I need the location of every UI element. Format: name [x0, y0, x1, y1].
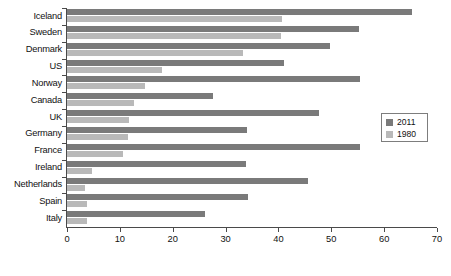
x-axis-tick	[67, 228, 68, 232]
bar-denmark-2011	[67, 43, 330, 49]
bar-group	[67, 75, 437, 92]
x-axis-tick-label: 10	[105, 234, 135, 245]
y-axis-tick	[62, 59, 66, 60]
y-axis-tick	[62, 75, 66, 76]
bar-denmark-1980	[67, 50, 243, 56]
y-axis-label-us: US	[0, 61, 62, 71]
y-axis-tick	[62, 92, 66, 93]
bar-spain-1980	[67, 201, 87, 207]
y-axis-tick	[62, 143, 66, 144]
x-axis-tick	[278, 228, 279, 232]
x-axis-tick-label: 40	[263, 234, 293, 245]
x-axis-tick	[384, 228, 385, 232]
bar-norway-2011	[67, 76, 360, 82]
y-axis-label-iceland: Iceland	[0, 11, 62, 21]
bar-italy-1980	[67, 218, 87, 224]
x-axis-tick	[226, 228, 227, 232]
bar-group	[67, 92, 437, 109]
y-axis-label-spain: Spain	[0, 196, 62, 206]
bar-germany-1980	[67, 134, 128, 140]
y-axis-label-netherlands: Netherlands	[0, 179, 62, 189]
bar-sweden-1980	[67, 33, 281, 39]
x-axis-tick-label: 20	[158, 234, 188, 245]
y-axis-tick	[62, 126, 66, 127]
bar-group	[67, 59, 437, 76]
bar-us-2011	[67, 60, 284, 66]
bar-iceland-1980	[67, 16, 282, 22]
x-axis-tick-label: 70	[422, 234, 451, 245]
bar-group	[67, 193, 437, 210]
bar-germany-2011	[67, 127, 247, 133]
y-axis-tick	[62, 25, 66, 26]
bar-group	[67, 25, 437, 42]
bar-ireland-1980	[67, 168, 92, 174]
legend-item-2011: 2011	[386, 117, 427, 128]
bar-uk-2011	[67, 110, 319, 116]
y-axis-label-uk: UK	[0, 112, 62, 122]
bar-group	[67, 143, 437, 160]
x-axis-tick	[120, 228, 121, 232]
x-axis-tick-label: 60	[369, 234, 399, 245]
bar-france-1980	[67, 151, 123, 157]
y-axis-label-norway: Norway	[0, 78, 62, 88]
bar-group	[67, 210, 437, 227]
x-axis-tick	[437, 228, 438, 232]
bar-netherlands-1980	[67, 185, 85, 191]
legend-label: 2011	[397, 118, 415, 127]
x-axis-tick	[331, 228, 332, 232]
y-axis-tick	[62, 42, 66, 43]
y-axis-tick	[62, 210, 66, 211]
legend-swatch-icon	[386, 119, 393, 126]
bar-group	[67, 160, 437, 177]
legend-swatch-icon	[386, 131, 393, 138]
bar-ireland-2011	[67, 161, 246, 167]
y-axis-tick	[62, 109, 66, 110]
x-axis-tick-label: 50	[316, 234, 346, 245]
bar-group	[67, 177, 437, 194]
bar-sweden-2011	[67, 26, 359, 32]
y-axis-label-france: France	[0, 145, 62, 155]
y-axis-tick	[62, 193, 66, 194]
y-axis-label-canada: Canada	[0, 95, 62, 105]
bar-group	[67, 42, 437, 59]
y-axis-line	[66, 8, 67, 228]
bar-uk-1980	[67, 117, 129, 123]
y-axis-label-ireland: Ireland	[0, 162, 62, 172]
y-axis-category-labels: IcelandSwedenDenmarkUSNorwayCanadaUKGerm…	[0, 8, 62, 227]
x-axis-line	[66, 227, 437, 228]
y-axis-tick	[62, 160, 66, 161]
bar-spain-2011	[67, 194, 248, 200]
bar-netherlands-2011	[67, 178, 308, 184]
legend-item-1980: 1980	[386, 129, 427, 140]
bar-canada-1980	[67, 100, 134, 106]
bar-us-1980	[67, 67, 162, 73]
y-axis-label-italy: Italy	[0, 213, 62, 223]
x-axis-tick	[173, 228, 174, 232]
y-axis-label-sweden: Sweden	[0, 27, 62, 37]
legend-label: 1980	[397, 130, 416, 139]
bar-italy-2011	[67, 211, 205, 217]
y-axis-tick	[62, 8, 66, 9]
y-axis-tick	[62, 177, 66, 178]
bar-iceland-2011	[67, 9, 412, 15]
bar-chart: IcelandSwedenDenmarkUSNorwayCanadaUKGerm…	[0, 0, 451, 276]
bar-norway-1980	[67, 83, 145, 89]
bar-group	[67, 8, 437, 25]
y-axis-label-denmark: Denmark	[0, 44, 62, 54]
bar-canada-2011	[67, 93, 213, 99]
bar-france-2011	[67, 144, 360, 150]
x-axis-tick-label: 0	[52, 234, 82, 245]
y-axis-label-germany: Germany	[0, 128, 62, 138]
chart-legend: 20111980	[381, 113, 428, 142]
x-axis-tick-label: 30	[211, 234, 241, 245]
